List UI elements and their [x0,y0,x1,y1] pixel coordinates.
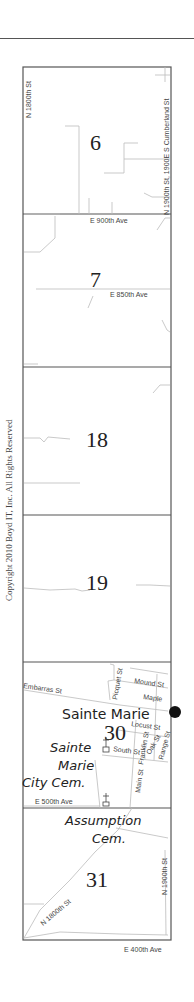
section-number: 6 [90,130,101,155]
road-label: N 1900th St, 1900E S Cumberland St [163,99,170,215]
road-label: E 400th Ave [124,946,162,953]
copyright-notice: Copyright 2010 Boyd IT, Inc. All Rights … [4,431,16,601]
town-label: Sainte Marie [62,706,150,722]
road-label: N 1900th St [161,858,168,895]
section-number: 7 [90,267,101,292]
cemetery-cross-icon [103,793,109,806]
cemetery-label: Assumption [64,813,142,828]
road-label: E 900th Ave [90,217,128,224]
map-border [23,67,171,940]
road-label: Main St [134,769,144,794]
roads-section-18 [24,364,170,483]
road-label: Mound St [134,677,165,688]
road-label: N 1800th St [25,81,32,118]
cemetery-label: Marie [58,758,94,773]
road-label: N 1800th St [39,898,72,927]
cemetery-label: Cem. [92,831,126,846]
section-number: 18 [86,427,108,452]
road-label: E 850th Ave [110,291,148,298]
section-number: 31 [86,867,108,892]
road-label: South St [113,745,141,756]
road-label: Picquet St [111,667,124,700]
section-number: 19 [86,570,108,595]
road-label: Maple [143,693,163,704]
road-label: Range St [157,730,172,760]
township-map: 6 7 18 19 30 31 N 1800th St N 1900th St,… [0,0,194,1002]
town-dot-icon [169,706,181,718]
cemetery-label: Sainte [50,740,91,755]
road-label: E 500th Ave [35,798,73,805]
cemetery-label: City Cem. [22,775,85,790]
section-number: 30 [104,720,126,745]
